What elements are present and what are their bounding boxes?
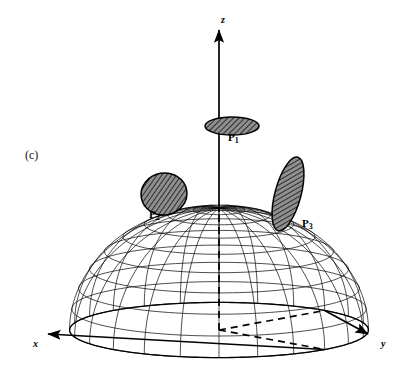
surface-patch-p2 — [138, 169, 191, 218]
patch-label-p3-sub: 3 — [309, 222, 313, 231]
patch-label-p3-base: P — [302, 217, 309, 229]
longitude-line — [90, 208, 219, 344]
axis-label-y: y — [381, 338, 385, 349]
patch-label-p2-sub: 2 — [156, 213, 160, 222]
longitude-line — [144, 208, 219, 354]
axis-label-x: x — [33, 338, 38, 349]
patch-label-p1-sub: 1 — [235, 136, 239, 145]
patch-label-p2: P2 — [149, 208, 160, 222]
axis-y-inner — [219, 310, 325, 330]
longitude-line — [70, 208, 219, 330]
coordinate-axes — [48, 30, 368, 350]
patch-label-p1: P1 — [228, 131, 239, 145]
panel-label: (c) — [25, 148, 38, 163]
patch-label-p1-base: P — [228, 131, 235, 143]
hemisphere-figure — [0, 0, 411, 368]
patch-label-p3: P3 — [302, 217, 313, 231]
longitude-line — [219, 208, 368, 330]
axis-label-z: z — [221, 14, 225, 25]
patch-label-p2-base: P — [149, 208, 156, 220]
